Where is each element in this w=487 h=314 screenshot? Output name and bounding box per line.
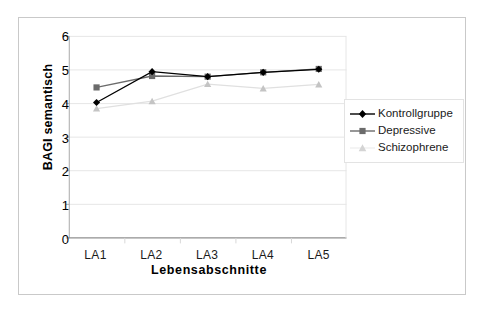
legend-marker-square-icon: [349, 124, 376, 138]
gridlines: [69, 36, 347, 204]
x-axis-title: Lebensabschnitte: [69, 263, 349, 277]
legend-item-kontrollgruppe[interactable]: Kontrollgruppe: [349, 105, 460, 122]
x-tick-label-la4: LA4: [235, 249, 291, 261]
legend-item-depressive[interactable]: Depressive: [349, 122, 460, 139]
x-tick-label-la5: LA5: [291, 249, 347, 261]
data-series-layer: [93, 66, 322, 112]
y-tick-label-0: 0: [47, 233, 69, 246]
x-tick-label-la3: LA3: [179, 249, 235, 261]
legend-marker-triangle-icon: [349, 141, 376, 155]
legend-label-depressive: Depressive: [376, 125, 436, 137]
legend-item-schizophrene[interactable]: Schizophrene: [349, 139, 460, 156]
chart-legend: Kontrollgruppe Depressive Schizophrene: [344, 99, 464, 163]
y-tick-label-1: 1: [47, 199, 69, 212]
x-tick-label-la2: LA2: [123, 249, 179, 261]
data-point: [93, 99, 100, 106]
figure-frame: 6 5 4 3 2 1 0 LA1 LA2 LA3 LA4 LA5 BAGI s…: [18, 17, 466, 295]
x-axis-ticks: [125, 238, 292, 243]
y-axis-title: BAGI semantisch: [41, 37, 55, 197]
legend-marker-diamond-icon: [349, 107, 376, 121]
series-line: [97, 84, 319, 109]
x-tick-label-la1: LA1: [68, 249, 124, 261]
data-point: [93, 84, 99, 90]
legend-label-kontrollgruppe: Kontrollgruppe: [376, 108, 453, 120]
legend-label-schizophrene: Schizophrene: [376, 142, 448, 154]
